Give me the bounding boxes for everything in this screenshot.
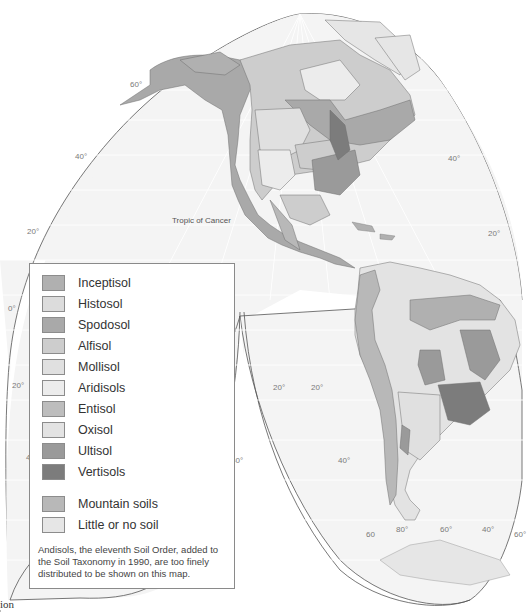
- legend-swatch: [42, 338, 65, 354]
- legend-swatch: [42, 275, 65, 291]
- legend-label: Vertisols: [78, 465, 125, 479]
- legend-item: Alfisol: [42, 337, 111, 355]
- legend-label: Mollisol: [78, 360, 120, 374]
- lon-label-60-right: 60°: [514, 530, 526, 539]
- lat-label-0-left: 0°: [8, 304, 16, 313]
- lat-label-20s-selobe: 20°: [311, 383, 323, 392]
- legend-swatch: [42, 401, 65, 417]
- legend-note: Andisols, the eleventh Soil Order, added…: [38, 544, 228, 580]
- legend-item: Oxisol: [42, 421, 113, 439]
- legend-swatch: [42, 517, 65, 533]
- legend-swatch: [42, 296, 65, 312]
- legend-swatch: [42, 359, 65, 375]
- legend-item: Little or no soil: [42, 516, 159, 534]
- lon-label-60w: 60°: [440, 525, 452, 534]
- legend-item: Mollisol: [42, 358, 120, 376]
- lat-label-40s-selobe: 40°: [338, 456, 350, 465]
- legend-item: Entisol: [42, 400, 116, 418]
- legend-swatch: [42, 380, 65, 396]
- legend-swatch: [42, 464, 65, 480]
- lat-label-20s-swlobe: 20°: [273, 383, 285, 392]
- legend-item: Mountain soils: [42, 495, 158, 513]
- lat-label-20-right: 20°: [488, 229, 500, 238]
- lon-label-80: 80°: [396, 525, 408, 534]
- caption-fragment: ion: [0, 598, 14, 610]
- legend-label: Histosol: [78, 297, 122, 311]
- legend-swatch: [42, 443, 65, 459]
- lat-label-40-left: 40°: [75, 152, 87, 161]
- legend-item: Spodosol: [42, 316, 130, 334]
- legend-label: Oxisol: [78, 423, 113, 437]
- legend-swatch: [42, 422, 65, 438]
- lat-label-60-left: 60°: [130, 80, 142, 89]
- lat-label-20-left: 20°: [27, 227, 39, 236]
- legend-label: Spodosol: [78, 318, 130, 332]
- legend-label: Inceptisol: [78, 276, 131, 290]
- lon-label-60: 60: [366, 530, 375, 539]
- legend-item: Inceptisol: [42, 274, 131, 292]
- legend-label: Little or no soil: [78, 518, 159, 532]
- legend: Inceptisol Histosol Spodosol Alfisol Mol…: [29, 263, 235, 589]
- legend-item: Histosol: [42, 295, 122, 313]
- legend-label: Mountain soils: [78, 497, 158, 511]
- lon-label-40w: 40°: [482, 525, 494, 534]
- tropic-of-cancer-label: Tropic of Cancer: [172, 216, 231, 225]
- legend-item: Vertisols: [42, 463, 125, 481]
- legend-item: Aridisols: [42, 379, 125, 397]
- legend-label: Entisol: [78, 402, 116, 416]
- lat-label-40-right: 40°: [448, 154, 460, 163]
- legend-label: Ultisol: [78, 444, 112, 458]
- lat-label-20s-left: 20°: [12, 381, 24, 390]
- legend-swatch: [42, 317, 65, 333]
- legend-item: Ultisol: [42, 442, 112, 460]
- legend-swatch: [42, 496, 65, 512]
- legend-label: Aridisols: [78, 381, 125, 395]
- legend-label: Alfisol: [78, 339, 111, 353]
